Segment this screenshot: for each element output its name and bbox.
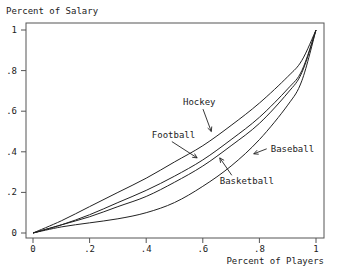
y-axis-ticks: 0.2.4.6.81 [6,25,26,238]
x-axis-ticks: 0.2.4.6.81 [30,238,318,254]
annotation-hockey: Hockey [183,97,216,107]
y-tick-label: 0 [12,228,17,238]
x-tick-label: .4 [141,244,152,254]
lorenz-salary-chart: Percent of Salary 0.2.4.6.81 0.2.4.6.81 … [0,0,341,272]
y-tick-label: .6 [6,106,17,116]
arrow-icon [172,142,197,158]
annotation-football: Football [152,130,195,140]
x-tick-label: .2 [84,244,95,254]
x-tick-label: 0 [30,244,35,254]
annotation-basketball: Basketball [220,176,274,186]
x-tick-label: .6 [197,244,208,254]
y-tick-label: 1 [12,25,17,35]
series-annotations: HockeyFootballBasketballBaseball [152,97,314,186]
y-axis-label: Percent of Salary [6,6,99,16]
x-tick-label: .8 [254,244,265,254]
y-tick-label: .8 [6,66,17,76]
annotation-baseball: Baseball [271,144,314,154]
y-tick-label: .2 [6,187,17,197]
arrow-icon [203,109,211,131]
x-tick-label: 1 [313,244,318,254]
y-tick-label: .4 [6,147,17,157]
x-axis-label: Percent of Players [226,256,324,266]
